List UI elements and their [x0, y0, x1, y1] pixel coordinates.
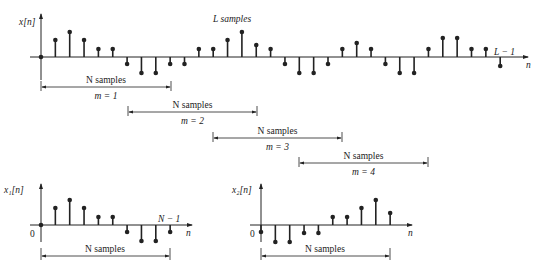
x2-stem-dot: [388, 211, 393, 216]
x1-stem-dot: [110, 215, 115, 220]
top-stem-dot: [326, 62, 331, 67]
x2-stem-dot: [259, 230, 264, 235]
top-stem-dot: [397, 71, 402, 76]
top-stem-dot: [283, 62, 288, 67]
top-stem-dot: [225, 38, 230, 43]
segment-n-samples-label: N samples: [258, 126, 298, 136]
top-stem-dot: [369, 47, 374, 52]
l-samples-label: L samples: [212, 14, 251, 24]
segment-m-label: m = 1: [95, 91, 118, 101]
x1-zero-label: 0: [30, 229, 35, 239]
x1-stem-dot: [53, 206, 58, 211]
top-stem-dot: [412, 71, 417, 76]
x-axis-label: n: [526, 60, 531, 70]
top-stem-dot: [139, 71, 144, 76]
top-stem-dot: [354, 41, 359, 46]
segment-brackets: N samplesm = 1N samplesm = 2N samplesm =…: [41, 75, 428, 177]
top-stem-dot: [297, 71, 302, 76]
x1-x-label: n: [186, 228, 191, 238]
top-stem-dot: [254, 43, 259, 48]
segment-m-label: m = 3: [266, 142, 289, 152]
x2-stem-dot: [359, 206, 364, 211]
top-stem-dot: [268, 47, 273, 52]
x2-stem-dot: [316, 231, 321, 236]
x2-zero-label: 0: [250, 229, 255, 239]
top-stem-dot: [125, 62, 130, 67]
segment-n-samples-label: N samples: [173, 100, 213, 110]
top-stem-dot: [240, 30, 245, 35]
top-stem-dot: [211, 47, 216, 52]
x2-stem-plot: x₂[n]0nN samples: [231, 184, 413, 260]
top-stem-dot: [469, 47, 474, 52]
x1-stem-plot: x₁[n]0N − 1nN samples: [3, 184, 192, 260]
x1-stem-dot: [39, 223, 44, 228]
top-stem-dot: [340, 47, 345, 52]
top-stem-plot: x[n]L samplesL − 1n: [18, 14, 531, 80]
x2-x-label: n: [408, 228, 413, 238]
segment-n-samples-label: N samples: [344, 151, 384, 161]
top-stem-dot: [441, 36, 446, 41]
x2-stem-dot: [273, 240, 278, 245]
top-stem-dot: [426, 47, 431, 52]
x1-stem-dot: [154, 239, 159, 244]
top-stem-dot: [39, 55, 44, 60]
top-stem-dot: [484, 47, 489, 52]
segment-m-label: m = 2: [181, 116, 204, 126]
overlap-segmentation-diagram: x[n]L samplesL − 1n N samplesm = 1N samp…: [0, 0, 542, 279]
x2-span-label: N samples: [305, 244, 345, 254]
segment-m-label: m = 4: [352, 167, 375, 177]
x1-y-label: x₁[n]: [3, 185, 24, 195]
top-stem-dot: [96, 47, 101, 52]
l-minus-1-label: L − 1: [493, 47, 515, 57]
top-stem-dot: [154, 71, 159, 76]
x2-stem-dot: [302, 231, 307, 236]
x1-stem-dot: [125, 230, 130, 235]
y-axis-label: x[n]: [18, 17, 36, 27]
x1-stem-dot: [82, 206, 87, 211]
top-stem-dot: [82, 38, 87, 43]
top-stem-dot: [383, 62, 388, 67]
top-stem-dot: [53, 38, 58, 43]
x2-stem-dot: [374, 198, 379, 203]
x2-stem-dot: [345, 215, 350, 220]
x2-y-label: x₂[n]: [231, 185, 252, 195]
top-stem-dot: [197, 47, 202, 52]
segment-n-samples-label: N samples: [86, 75, 126, 85]
top-stem-dot: [498, 64, 503, 69]
top-stem-dot: [455, 36, 460, 41]
x2-stem-dot: [330, 215, 335, 220]
x1-stem-dot: [96, 215, 101, 220]
x1-span-label: N samples: [85, 244, 125, 254]
top-stem-dot: [182, 62, 187, 67]
x1-stem-dot: [168, 230, 173, 235]
x1-n-minus-1-label: N − 1: [157, 214, 180, 224]
x1-stem-dot: [139, 239, 144, 244]
x1-stem-dot: [67, 198, 72, 203]
top-stem-dot: [110, 47, 115, 52]
x2-stem-dot: [287, 240, 292, 245]
top-stem-dot: [311, 71, 316, 76]
top-stem-dot: [67, 30, 72, 35]
top-stem-dot: [168, 62, 173, 67]
